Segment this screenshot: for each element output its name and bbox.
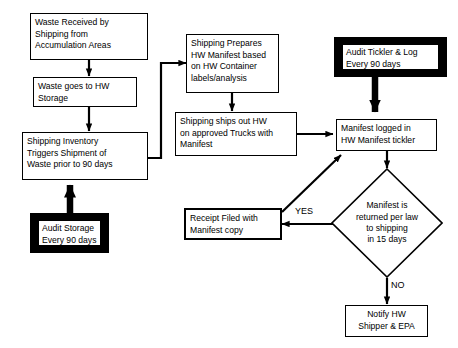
node-line: returned per law xyxy=(356,212,418,223)
node-line: HW Manifest based xyxy=(191,50,274,62)
node-line: Shipping Prepares xyxy=(191,38,274,50)
node-line: Manifest is xyxy=(356,200,418,211)
node-line: Shipping ships out HW xyxy=(180,116,292,128)
node-line: Manifest logged in xyxy=(341,123,432,135)
node-line: Storage xyxy=(38,93,132,105)
node-manifest-returned[interactable]: Manifest is returned per law to shipping… xyxy=(331,168,443,278)
node-receipt-filed[interactable]: Receipt Filed with Manifest copy xyxy=(184,208,282,240)
edge-label-no: NO xyxy=(390,280,406,290)
node-line: in 15 days xyxy=(356,234,418,245)
node-waste-storage[interactable]: Waste goes to HW Storage xyxy=(33,77,137,107)
node-line: on approved Trucks with xyxy=(180,128,292,140)
node-line: labels/analysis xyxy=(191,73,274,85)
node-shipping-prepares[interactable]: Shipping Prepares HW Manifest based on H… xyxy=(186,34,279,93)
node-shipping-ships-out[interactable]: Shipping ships out HW on approved Trucks… xyxy=(175,112,297,156)
node-line: Waste Received by xyxy=(35,17,143,29)
audit-storage-inner-panel: Audit Storage Every 90 days xyxy=(38,220,101,246)
node-line: Notify HW xyxy=(348,309,425,321)
node-line: Audit Storage xyxy=(42,223,97,235)
node-line: on HW Container xyxy=(191,61,274,73)
node-line: Manifest xyxy=(180,139,292,151)
node-line: Accumulation Areas xyxy=(35,40,143,52)
edge-label-yes: YES xyxy=(294,206,314,216)
node-notify-hw[interactable]: Notify HW Shipper & EPA xyxy=(345,305,428,337)
node-line: Audit Tickler & Log xyxy=(346,47,435,59)
node-audit-storage[interactable]: Audit Storage Every 90 days xyxy=(30,213,109,253)
node-line: Every 90 days xyxy=(346,59,435,71)
flowchart-canvas: Waste Received by Shipping from Accumula… xyxy=(0,0,458,348)
node-shipping-inventory[interactable]: Shipping Inventory Triggers Shipment of … xyxy=(22,132,148,180)
node-line: Receipt Filed with xyxy=(190,213,276,225)
node-line: Shipping from xyxy=(35,29,143,41)
node-line: Shipping Inventory xyxy=(27,136,143,148)
node-line: Every 90 days xyxy=(42,235,97,247)
node-line: HW Manifest tickler xyxy=(341,135,432,147)
diamond-text: Manifest is returned per law to shipping… xyxy=(331,168,443,278)
node-line: to shipping xyxy=(356,223,418,234)
audit-tickler-inner-panel: Audit Tickler & Log Every 90 days xyxy=(342,44,439,70)
node-line: Waste prior to 90 days xyxy=(27,159,143,171)
node-waste-received[interactable]: Waste Received by Shipping from Accumula… xyxy=(30,13,148,60)
node-line: Waste goes to HW xyxy=(38,81,132,93)
node-line: Triggers Shipment of xyxy=(27,148,143,160)
node-line: Manifest copy xyxy=(190,225,276,237)
node-manifest-logged[interactable]: Manifest logged in HW Manifest tickler xyxy=(336,119,437,151)
node-audit-tickler[interactable]: Audit Tickler & Log Every 90 days xyxy=(334,37,447,77)
node-line: Shipper & EPA xyxy=(348,321,425,333)
